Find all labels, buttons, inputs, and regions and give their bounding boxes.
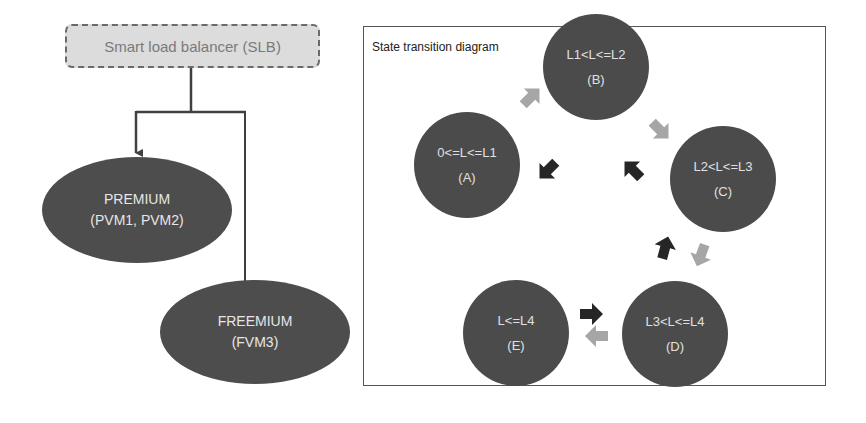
arrow-d-to-e-icon	[585, 325, 608, 347]
transition-arrows	[0, 0, 866, 423]
arrow-b-to-a-icon	[532, 154, 564, 186]
arrow-e-to-d-icon	[580, 303, 603, 325]
arrow-d-to-c-icon	[652, 234, 679, 262]
arrow-b-to-c-icon	[644, 114, 676, 146]
diagram-canvas: Smart load balancer (SLB) PREMIUM (PVM1,…	[0, 0, 866, 423]
arrow-c-to-b-icon	[617, 154, 649, 186]
arrow-c-to-d-icon	[687, 241, 716, 270]
arrow-a-to-b-icon	[515, 81, 547, 113]
